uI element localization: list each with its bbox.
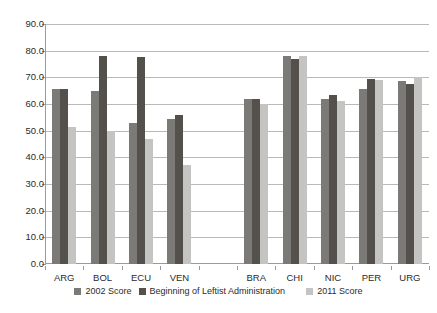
bar-group-empty	[199, 24, 237, 264]
x-axis-label-empty	[199, 266, 237, 283]
x-axis-tick	[160, 266, 161, 270]
x-axis-label-nic: NIC	[314, 266, 352, 283]
bar-group-ecu	[122, 24, 160, 264]
x-axis-tick	[122, 266, 123, 270]
x-axis-label-per: PER	[352, 266, 390, 283]
bar-bra-s1	[252, 99, 260, 264]
legend-label: Beginning of Leftist Administration	[150, 286, 286, 296]
bar-chi-s1	[291, 59, 299, 264]
x-axis-tick	[391, 266, 392, 270]
bar-bol-s1	[99, 56, 107, 264]
x-axis-tick	[199, 266, 200, 270]
y-axis-label: 60.0	[2, 98, 44, 109]
bar-group-urg	[391, 24, 429, 264]
legend-swatch-icon	[139, 288, 146, 295]
bar-ven-s2	[183, 165, 191, 264]
x-axis-label-bra: BRA	[237, 266, 275, 283]
bar-ven-s1	[175, 115, 183, 264]
x-axis-tick	[275, 266, 276, 270]
bar-chi-s2	[299, 56, 307, 264]
bar-group-per	[352, 24, 390, 264]
x-axis-tick	[83, 266, 84, 270]
legend-item-1: Beginning of Leftist Administration	[139, 286, 286, 296]
x-axis-tick	[352, 266, 353, 270]
bar-group-ven	[160, 24, 198, 264]
bar-group-nic	[314, 24, 352, 264]
bar-nic-s2	[337, 101, 345, 264]
x-axis-tick	[429, 266, 430, 270]
x-axis-label-ecu: ECU	[122, 266, 160, 283]
bar-chart: 90.080.070.060.050.040.030.020.010.00.0 …	[0, 0, 437, 313]
x-axis-label-urg: URG	[391, 266, 429, 283]
legend-swatch-icon	[306, 288, 313, 295]
y-axis-label: 0.0	[2, 258, 44, 269]
x-axis-label-chi: CHI	[275, 266, 313, 283]
y-axis-label: 30.0	[2, 178, 44, 189]
bar-urg-s0	[398, 81, 406, 264]
bar-ecu-s1	[137, 57, 145, 264]
bar-per-s1	[367, 79, 375, 264]
bar-urg-s1	[406, 84, 414, 264]
y-axis-label: 20.0	[2, 205, 44, 216]
bar-ecu-s0	[129, 123, 137, 264]
x-axis-label-arg: ARG	[45, 266, 83, 283]
bar-ecu-s2	[145, 139, 153, 264]
bar-per-s2	[375, 80, 383, 264]
legend-label: 2002 Score	[85, 286, 131, 296]
x-axis: ARGBOLECUVENBRACHINICPERURG	[45, 266, 429, 283]
x-axis-tick	[45, 266, 46, 270]
bar-bra-s2	[260, 104, 268, 264]
bar-group-bra	[237, 24, 275, 264]
bar-chi-s0	[283, 56, 291, 264]
legend-swatch-icon	[74, 288, 81, 295]
bar-urg-s2	[414, 77, 422, 264]
x-axis-label-ven: VEN	[160, 266, 198, 283]
bar-group-arg	[45, 24, 83, 264]
bar-arg-s0	[52, 89, 60, 264]
bar-bol-s2	[107, 131, 115, 264]
y-axis-label: 50.0	[2, 125, 44, 136]
y-axis-label: 10.0	[2, 231, 44, 242]
bar-ven-s0	[167, 119, 175, 264]
y-axis-label: 70.0	[2, 71, 44, 82]
y-axis-label: 80.0	[2, 45, 44, 56]
bar-nic-s1	[329, 95, 337, 264]
chart-legend: 2002 ScoreBeginning of Leftist Administr…	[0, 286, 437, 296]
y-axis-label: 40.0	[2, 151, 44, 162]
x-axis-tick	[237, 266, 238, 270]
y-axis-label: 90.0	[2, 18, 44, 29]
bars-layer	[45, 24, 429, 264]
legend-item-0: 2002 Score	[74, 286, 131, 296]
bar-bra-s0	[244, 99, 252, 264]
bar-group-bol	[83, 24, 121, 264]
bar-bol-s0	[91, 91, 99, 264]
bar-per-s0	[359, 89, 367, 264]
x-axis-tick	[314, 266, 315, 270]
bar-arg-s2	[68, 127, 76, 264]
bar-nic-s0	[321, 99, 329, 264]
legend-label: 2011 Score	[317, 286, 362, 296]
x-axis-label-bol: BOL	[83, 266, 121, 283]
legend-item-2: 2011 Score	[306, 286, 362, 296]
bar-group-chi	[275, 24, 313, 264]
bar-arg-s1	[60, 89, 68, 264]
